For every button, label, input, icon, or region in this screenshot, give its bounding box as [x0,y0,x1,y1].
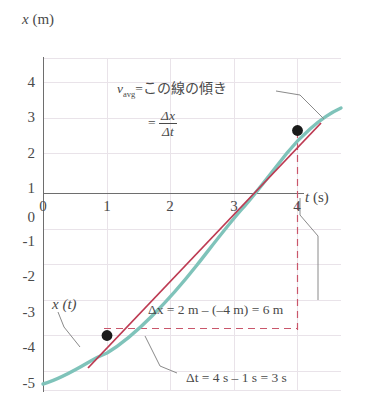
curve-label-xt: x (t) [52,297,77,312]
vavg-annotation-line2: = Δx Δt [148,108,177,139]
x-tick-1: 1 [95,199,119,214]
vavg-leader-line [276,91,324,119]
average-velocity-secant-line [88,123,321,368]
x-axis-title-unit: (s) [313,189,329,205]
y-axis-title-unit: (m) [32,11,54,27]
fraction-denominator: Δt [159,124,177,139]
position-time-graph-figure: x (m) t (s) 4 3 2 1 0 -1 -2 -3 -4 -5 0 1… [0,0,376,414]
delta-t-leader-line [145,336,177,373]
marker-point-t4 [292,125,303,136]
chart-canvas [0,0,376,414]
y-tick-neg2: -2 [6,269,35,284]
y-tick-4: 4 [10,75,35,90]
vavg-equals-1: = [135,81,143,96]
grid-horizontal [44,59,342,391]
y-tick-neg4: -4 [6,340,35,355]
y-tick-3: 3 [10,110,35,125]
vavg-subscript: avg [123,89,135,99]
delta-x-over-delta-t-fraction: Δx Δt [159,108,177,139]
y-tick-neg1: -1 [6,234,35,249]
x-tick-2: 2 [158,199,182,214]
y-axis-title-symbol: x [22,11,29,27]
vavg-annotation-line1: vavg=この線の傾き [117,81,227,98]
delta-t-annotation: Δt = 4 s – 1 s = 3 s [186,371,287,385]
marker-point-t1 [102,330,113,341]
x-tick-4: 4 [285,199,309,214]
fraction-numerator: Δx [159,108,177,124]
delta-x-annotation: Δx = 2 m – (–4 m) = 6 m [148,303,283,317]
y-axis-title: x (m) [22,12,54,27]
x-tick-0: 0 [31,199,55,214]
y-tick-1: 1 [10,181,35,196]
y-tick-neg5: -5 [6,376,35,391]
y-tick-2: 2 [10,146,35,161]
vavg-japanese-text: この線の傾き [143,80,227,96]
y-tick-neg3: -3 [6,305,35,320]
x-tick-3: 3 [222,199,246,214]
vavg-equals-2: = [148,115,156,130]
xt-leader-line [58,312,80,347]
